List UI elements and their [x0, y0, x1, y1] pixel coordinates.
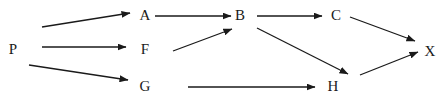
diagram-canvas: PAFGBCHX [0, 0, 442, 96]
nodes-layer: PAFGBCHX [9, 7, 436, 94]
node-c: C [331, 7, 341, 23]
edge-c-to-x [350, 17, 415, 41]
edge-b-to-h [257, 28, 348, 74]
directed-graph: PAFGBCHX [0, 0, 442, 96]
node-p: P [9, 41, 17, 57]
edge-h-to-x [360, 52, 418, 75]
node-a: A [140, 7, 151, 23]
edge-p-to-g [29, 65, 128, 80]
edge-f-to-b [173, 29, 232, 51]
node-g: G [140, 78, 151, 94]
node-b: B [235, 7, 245, 23]
node-h: H [328, 78, 339, 94]
edge-p-to-a [42, 13, 130, 27]
edges-layer [29, 13, 418, 87]
node-x: X [425, 43, 436, 59]
node-f: F [141, 41, 149, 57]
